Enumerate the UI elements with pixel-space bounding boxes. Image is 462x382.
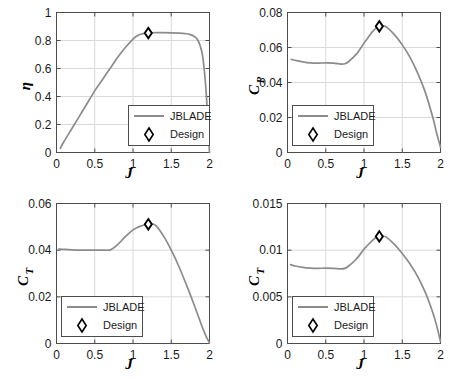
ytick-label: 0 bbox=[276, 337, 283, 351]
yaxis-title-ct-right-sub: T bbox=[254, 266, 266, 274]
legend-ct-left[interactable]: JBLADE Design bbox=[62, 297, 145, 337]
yaxis-title-cp-sub: P bbox=[254, 76, 266, 83]
ytick-label: 1 bbox=[45, 6, 52, 20]
legend-line-label: JBLADE bbox=[334, 110, 376, 122]
figure-container: 00.511.5200.20.40.60.81 J η JBLADE Desig… bbox=[0, 0, 462, 382]
design-point-diamond-icon[interactable] bbox=[145, 28, 152, 38]
ytick-label: 0.04 bbox=[28, 243, 52, 257]
legend-marker-label: Design bbox=[334, 128, 368, 140]
ytick-label: 0.6 bbox=[35, 62, 52, 76]
legend-marker-label: Design bbox=[334, 319, 368, 331]
ytick-label: 0.005 bbox=[252, 290, 282, 304]
panel-ct-left: 00.511.5200.020.040.06 J C T JBLADE Desi… bbox=[0, 191, 231, 382]
xtick-label: 0 bbox=[284, 157, 291, 171]
ytick-label: 0.8 bbox=[35, 34, 52, 48]
xtick-label: 1.5 bbox=[163, 157, 180, 171]
xaxis-title-eta: J bbox=[124, 165, 133, 181]
design-marker-cp[interactable] bbox=[376, 21, 383, 31]
yaxis-title-ct-right-base: C bbox=[246, 275, 262, 286]
xtick-label: 2 bbox=[206, 157, 213, 171]
xtick-label: 0.5 bbox=[86, 157, 103, 171]
xtick-label: 1.5 bbox=[394, 348, 411, 362]
ytick-label: 0.01 bbox=[259, 243, 283, 257]
legend-line-label: JBLADE bbox=[103, 301, 145, 313]
design-marker-eta[interactable] bbox=[145, 28, 152, 38]
ytick-label: 0 bbox=[45, 337, 52, 351]
xtick-label: 2 bbox=[437, 348, 444, 362]
xtick-label: 0.5 bbox=[317, 157, 334, 171]
xtick-label: 1.5 bbox=[394, 157, 411, 171]
design-point-diamond-icon[interactable] bbox=[145, 219, 152, 229]
xtick-label: 2 bbox=[437, 157, 444, 171]
design-point-diamond-icon[interactable] bbox=[376, 231, 383, 241]
design-point-diamond-icon[interactable] bbox=[376, 21, 383, 31]
yaxis-title-cp-base: C bbox=[246, 84, 262, 95]
yaxis-title-ct-left-sub: T bbox=[23, 266, 35, 274]
panel-ct-right-svg: 00.511.5200.0050.010.015 J C T JBLADE De… bbox=[231, 191, 462, 382]
panel-eta: 00.511.5200.20.40.60.81 J η JBLADE Desig… bbox=[0, 0, 231, 191]
legend-line-label: JBLADE bbox=[170, 110, 212, 122]
ytick-label: 0.4 bbox=[35, 90, 52, 104]
xaxis-title-ct-left: J bbox=[124, 356, 133, 372]
legend-eta[interactable]: JBLADE Design bbox=[129, 106, 212, 146]
xtick-label: 1.5 bbox=[163, 348, 180, 362]
legend-line-label: JBLADE bbox=[334, 301, 376, 313]
xtick-label: 2 bbox=[206, 348, 213, 362]
legend-ct-right[interactable]: JBLADE Design bbox=[293, 297, 376, 337]
yaxis-title-ct-left: C T bbox=[15, 266, 35, 286]
xtick-label: 0.5 bbox=[86, 348, 103, 362]
legend-marker-label: Design bbox=[170, 128, 204, 140]
design-marker-ct-right[interactable] bbox=[376, 231, 383, 241]
ytick-label: 0.2 bbox=[35, 118, 52, 132]
yaxis-title-eta: η bbox=[17, 82, 33, 90]
ytick-label: 0.06 bbox=[259, 41, 283, 55]
yaxis-title-ct-left-base: C bbox=[15, 275, 31, 286]
ytick-label: 0 bbox=[45, 146, 52, 160]
ytick-label: 0.02 bbox=[259, 111, 283, 125]
ytick-label: 0 bbox=[276, 146, 283, 160]
legend-cp[interactable]: JBLADE Design bbox=[293, 106, 376, 146]
yaxis-title-ct-right: C T bbox=[246, 266, 266, 286]
panel-ct-right: 00.511.5200.0050.010.015 J C T JBLADE De… bbox=[231, 191, 462, 382]
ytick-label: 0.02 bbox=[28, 290, 52, 304]
design-marker-ct-left[interactable] bbox=[145, 219, 152, 229]
xaxis-title-ct-right: J bbox=[355, 356, 364, 372]
xtick-label: 0.5 bbox=[317, 348, 334, 362]
panel-ct-left-svg: 00.511.5200.020.040.06 J C T JBLADE Desi… bbox=[0, 191, 231, 382]
xtick-label: 0 bbox=[53, 348, 60, 362]
ytick-label: 0.06 bbox=[28, 197, 52, 211]
panel-cp-svg: 00.511.5200.020.040.060.08 J C P JBLADE … bbox=[231, 0, 462, 191]
xtick-label: 0 bbox=[284, 348, 291, 362]
panel-cp: 00.511.5200.020.040.060.08 J C P JBLADE … bbox=[231, 0, 462, 191]
xaxis-title-cp: J bbox=[355, 165, 364, 181]
ytick-label: 0.015 bbox=[252, 197, 282, 211]
legend-marker-label: Design bbox=[103, 319, 137, 331]
panel-eta-svg: 00.511.5200.20.40.60.81 J η JBLADE Desig… bbox=[0, 0, 231, 191]
ytick-label: 0.08 bbox=[259, 6, 283, 20]
xtick-label: 0 bbox=[53, 157, 60, 171]
